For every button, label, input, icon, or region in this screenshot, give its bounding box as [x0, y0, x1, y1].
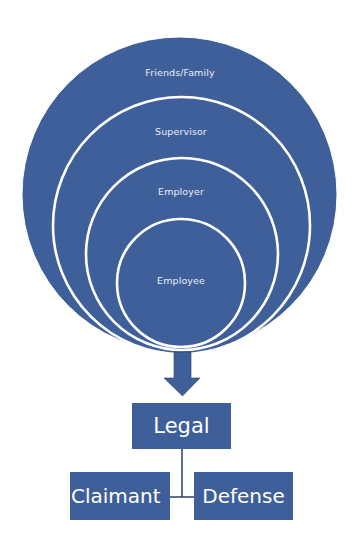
legal-box: Legal — [132, 403, 231, 449]
label-supervisor: Supervisor — [121, 126, 241, 137]
legal-label: Legal — [153, 414, 209, 438]
nested-circles-diagram: Friends/Family Supervisor Employer Emplo… — [0, 0, 358, 549]
defense-box: Defense — [194, 472, 293, 520]
claimant-label: Claimant — [71, 484, 161, 508]
label-employer: Employer — [121, 186, 241, 197]
label-employee: Employee — [121, 275, 241, 286]
label-friends-family: Friends/Family — [120, 67, 240, 78]
claimant-box: Claimant — [70, 472, 170, 520]
down-arrow-icon — [164, 352, 200, 396]
defense-label: Defense — [202, 484, 284, 508]
